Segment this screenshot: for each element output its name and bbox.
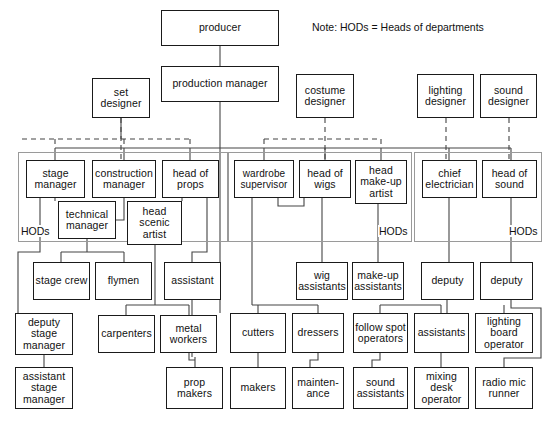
node-sound-designer[interactable]: sound designer xyxy=(480,74,537,118)
node-radio-mic-runner[interactable]: radio mic runner xyxy=(475,367,533,409)
node-assistant[interactable]: assistant xyxy=(164,262,221,300)
node-maintenance[interactable]: mainten- ance xyxy=(292,367,344,409)
node-lighting-board-operator[interactable]: lighting board operator xyxy=(475,313,533,353)
node-costume-designer[interactable]: costume designer xyxy=(296,74,354,118)
node-carpenters[interactable]: carpenters xyxy=(98,315,155,353)
node-head-of-wigs[interactable]: head of wigs xyxy=(299,160,351,198)
node-production-manager[interactable]: production manager xyxy=(161,66,279,102)
node-sound-assistants[interactable]: sound assistants xyxy=(353,367,408,409)
node-stage-manager[interactable]: stage manager xyxy=(26,160,85,198)
node-lighting-designer[interactable]: lighting designer xyxy=(417,74,474,118)
node-head-of-props[interactable]: head of props xyxy=(162,160,219,198)
legend-note: Note: HODs = Heads of departments xyxy=(312,21,484,33)
node-construction-manager[interactable]: construction manager xyxy=(92,160,156,198)
node-producer[interactable]: producer xyxy=(161,10,279,46)
node-assistants[interactable]: assistants xyxy=(414,313,469,353)
node-head-of-sound[interactable]: head of sound xyxy=(482,160,537,198)
node-dressers[interactable]: dressers xyxy=(292,313,344,353)
hod-label-stage: HODs xyxy=(20,225,51,237)
node-wardrobe-supervisor[interactable]: wardrobe supervisor xyxy=(234,160,294,198)
node-cutters[interactable]: cutters xyxy=(230,313,286,353)
node-deputy-lighting[interactable]: deputy xyxy=(421,262,474,300)
node-set-designer[interactable]: set designer xyxy=(92,78,150,118)
node-mixing-desk-operator[interactable]: mixing desk operator xyxy=(414,367,469,409)
hod-label-wardrobe: HODs xyxy=(378,225,409,237)
node-head-scenic-artist[interactable]: head scenic artist xyxy=(127,201,182,245)
node-deputy-stage-manager[interactable]: deputy stage manager xyxy=(15,313,73,355)
node-stage-crew[interactable]: stage crew xyxy=(33,262,90,300)
node-prop-makers[interactable]: prop makers xyxy=(166,367,223,409)
org-chart-canvas: HODs HODs HODs Note: HODs = Heads of dep… xyxy=(0,0,556,424)
node-wig-assistants[interactable]: wig assistants xyxy=(296,262,348,300)
node-assistant-stage-manager[interactable]: assistant stage manager xyxy=(15,367,73,409)
node-make-up-assistants[interactable]: make-up assistants xyxy=(352,262,404,300)
hod-label-lighting-sound: HODs xyxy=(508,225,539,237)
node-head-make-up-artist[interactable]: head make-up artist xyxy=(355,160,407,204)
node-flymen[interactable]: flymen xyxy=(95,262,152,300)
node-chief-electrician[interactable]: chief electrician xyxy=(422,160,477,198)
node-deputy-sound[interactable]: deputy xyxy=(480,262,533,300)
node-makers[interactable]: makers xyxy=(230,367,286,409)
node-follow-spot-operators[interactable]: follow spot operators xyxy=(353,313,408,353)
node-technical-manager[interactable]: technical manager xyxy=(58,201,116,239)
node-metal-workers[interactable]: metal workers xyxy=(160,315,217,353)
